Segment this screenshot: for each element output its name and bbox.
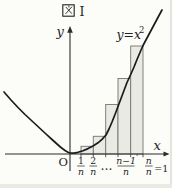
- x-axis-arrowhead: [164, 151, 170, 156]
- fraction-numerator: n−1: [116, 155, 136, 166]
- stray-print-mark: ’: [136, 153, 139, 163]
- fraction-denominator: n: [78, 166, 84, 177]
- tick-label-n-over-n-equals-1: n n =1: [145, 155, 168, 177]
- fraction-denominator: n: [90, 166, 96, 177]
- origin-label: O: [59, 155, 68, 169]
- tick-label-2-over-n: 2 n: [90, 155, 98, 177]
- fraction-denominator: n: [146, 166, 152, 177]
- curve-label-exponent: 2: [139, 25, 144, 35]
- y-axis-label: y: [56, 24, 65, 39]
- curve-label: y=x 2: [116, 25, 145, 42]
- scan-edge-right: [170, 0, 172, 188]
- fraction-numerator: n: [146, 155, 152, 166]
- y-axis: [67, 26, 73, 171]
- figure-title: I: [63, 4, 85, 19]
- fraction-numerator: 1: [78, 155, 84, 166]
- ellipsis-dots: …: [101, 159, 113, 173]
- fraction-numerator: 2: [90, 155, 96, 166]
- equals-one-suffix: =1: [154, 163, 168, 174]
- zu-kanji-icon: [63, 5, 74, 16]
- x-axis-label: x: [154, 138, 162, 153]
- tick-label-n-minus-1-over-n: n−1 n: [116, 155, 136, 177]
- scan-edge-bottom: [0, 184, 172, 188]
- curve-label-base: y=x: [116, 27, 142, 42]
- riemann-sum-figure: I y x: [0, 0, 172, 188]
- figure-title-numeral: I: [80, 4, 85, 19]
- y-axis-arrowhead: [67, 26, 73, 33]
- fraction-denominator: n: [123, 166, 129, 177]
- riemann-rectangles: [81, 46, 143, 154]
- riemann-rectangle-5: [131, 46, 143, 154]
- tick-label-1-over-n: 1 n: [77, 155, 85, 177]
- figure-canvas: I y x: [0, 0, 172, 188]
